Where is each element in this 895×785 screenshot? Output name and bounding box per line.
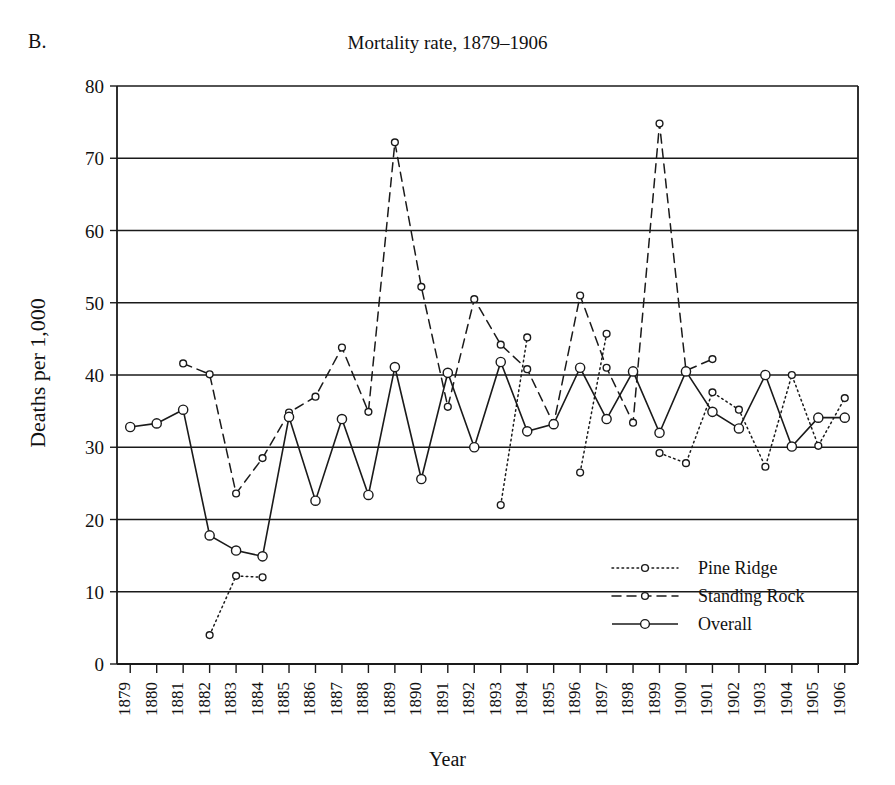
legend-label-overall[interactable]: Overall xyxy=(698,614,752,634)
x-tick-label: 1904 xyxy=(777,682,796,717)
data-point xyxy=(126,422,135,431)
legend-marker-icon xyxy=(641,620,650,629)
data-point xyxy=(311,496,320,505)
data-point xyxy=(524,366,531,373)
x-tick-label: 1885 xyxy=(274,682,293,716)
x-tick-label: 1902 xyxy=(724,682,743,716)
data-point xyxy=(152,419,161,428)
x-tick-label: 1905 xyxy=(803,682,822,716)
data-point xyxy=(497,502,504,509)
data-point xyxy=(708,407,717,416)
data-point xyxy=(841,395,848,402)
x-tick-label: 1882 xyxy=(195,682,214,716)
y-tick-label: 80 xyxy=(85,76,104,97)
data-point xyxy=(524,334,531,341)
data-point xyxy=(523,427,532,436)
data-point xyxy=(683,460,690,467)
data-point xyxy=(577,292,584,299)
x-tick-label: 1888 xyxy=(353,682,372,716)
x-tick-label: 1898 xyxy=(618,682,637,716)
data-point xyxy=(390,362,399,371)
plot-area: 0102030405060708018791880188118821883188… xyxy=(0,0,895,785)
legend-marker-icon xyxy=(642,565,649,572)
data-point xyxy=(391,139,398,146)
data-point xyxy=(602,414,611,423)
data-point xyxy=(549,420,558,429)
data-point xyxy=(231,546,240,555)
x-tick-label: 1903 xyxy=(750,682,769,716)
data-point xyxy=(233,490,240,497)
legend-label-pine-ridge[interactable]: Pine Ridge xyxy=(698,558,778,578)
x-tick-label: 1887 xyxy=(327,682,346,717)
data-point xyxy=(630,419,637,426)
data-point xyxy=(655,428,664,437)
x-tick-label: 1883 xyxy=(221,682,240,716)
data-point xyxy=(761,370,770,379)
y-tick-label: 50 xyxy=(85,293,104,314)
data-point xyxy=(180,360,187,367)
data-point xyxy=(337,414,346,423)
data-point xyxy=(339,344,346,351)
x-tick-label: 1884 xyxy=(248,682,267,717)
data-point xyxy=(628,367,637,376)
x-tick-label: 1880 xyxy=(142,682,161,716)
x-tick-label: 1900 xyxy=(671,682,690,716)
data-point xyxy=(470,443,479,452)
data-point xyxy=(734,424,743,433)
series-standing-rock xyxy=(180,120,716,497)
data-point xyxy=(656,450,663,457)
y-tick-label: 20 xyxy=(85,510,104,531)
y-tick-label: 70 xyxy=(85,148,104,169)
data-point xyxy=(444,403,451,410)
data-point xyxy=(259,455,266,462)
y-tick-label: 0 xyxy=(95,654,105,675)
x-tick-label: 1891 xyxy=(433,682,452,716)
data-point xyxy=(497,341,504,348)
data-point xyxy=(815,442,822,449)
data-point xyxy=(788,372,795,379)
series-line xyxy=(210,576,263,635)
data-point xyxy=(418,283,425,290)
data-point xyxy=(840,413,849,422)
data-point xyxy=(496,357,505,366)
x-tick-label: 1896 xyxy=(565,682,584,716)
data-point xyxy=(576,363,585,372)
y-tick-label: 40 xyxy=(85,365,104,386)
data-point xyxy=(443,368,452,377)
legend-marker-icon xyxy=(642,593,649,600)
data-point xyxy=(787,442,796,451)
data-point xyxy=(471,296,478,303)
data-point xyxy=(762,463,769,470)
y-tick-label: 10 xyxy=(85,582,104,603)
data-point xyxy=(681,367,690,376)
y-tick-label: 60 xyxy=(85,221,104,242)
series-overall xyxy=(126,357,850,561)
data-point xyxy=(312,393,319,400)
data-point xyxy=(603,364,610,371)
data-point xyxy=(365,408,372,415)
data-point xyxy=(179,405,188,414)
x-tick-label: 1886 xyxy=(300,682,319,716)
data-point xyxy=(603,330,610,337)
data-point xyxy=(284,412,293,421)
series-line xyxy=(580,334,606,473)
data-point xyxy=(206,632,213,639)
data-point xyxy=(736,406,743,413)
data-point xyxy=(814,413,823,422)
data-point xyxy=(205,531,214,540)
x-tick-label: 1906 xyxy=(830,682,849,716)
x-tick-label: 1892 xyxy=(459,682,478,716)
data-point xyxy=(206,371,213,378)
x-tick-label: 1893 xyxy=(486,682,505,716)
data-point xyxy=(417,474,426,483)
data-point xyxy=(258,552,267,561)
series-line xyxy=(130,362,845,556)
data-point xyxy=(233,572,240,579)
chart-figure: B. Mortality rate, 1879–1906 Deaths per … xyxy=(0,0,895,785)
series-line xyxy=(183,124,712,494)
legend: Pine RidgeStanding RockOverall xyxy=(612,558,805,634)
legend-label-standing-rock[interactable]: Standing Rock xyxy=(698,586,805,606)
data-point xyxy=(259,574,266,581)
x-tick-label: 1897 xyxy=(592,682,611,717)
x-tick-label: 1899 xyxy=(645,682,664,716)
